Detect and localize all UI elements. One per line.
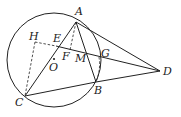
segment-ad: [76, 22, 160, 71]
label-c: C: [15, 96, 24, 109]
label-a: A: [74, 5, 83, 18]
label-g: G: [101, 47, 110, 60]
label-d: D: [162, 65, 172, 78]
label-h: H: [28, 30, 39, 43]
geometry-diagram: A B C D E F G H M O: [0, 0, 181, 117]
label-m: M: [74, 52, 87, 65]
label-f: F: [61, 50, 70, 63]
segment-cb: [25, 82, 96, 96]
label-e: E: [52, 32, 61, 45]
label-o: O: [49, 61, 58, 74]
center-point-o: [53, 58, 55, 60]
label-b: B: [93, 84, 102, 97]
segment-bd: [96, 71, 160, 82]
